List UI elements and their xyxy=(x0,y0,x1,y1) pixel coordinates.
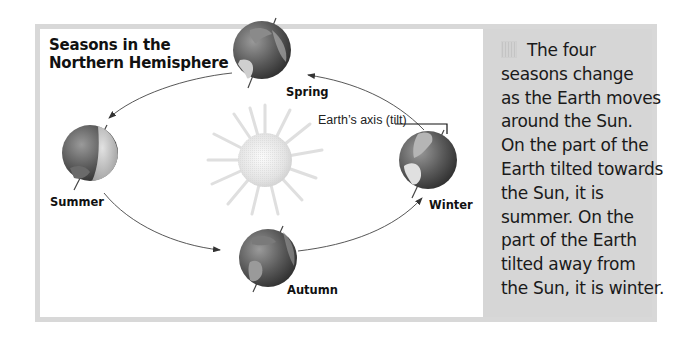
globe-summer-icon xyxy=(62,125,118,190)
panel-line-4: around the Sun. xyxy=(501,110,661,134)
globe-spring-icon xyxy=(233,18,291,88)
arrow-autumn-to-winter xyxy=(298,198,422,251)
panel-line-2: seasons change xyxy=(501,63,661,87)
panel-line-6: Earth tilted towards xyxy=(501,158,661,182)
panel-line-7: the Sun, it is xyxy=(501,182,661,206)
panel-line-5: On the part of the xyxy=(501,134,661,158)
arrow-summer-to-autumn xyxy=(104,193,220,250)
panel-line-10: tilted away from xyxy=(501,253,661,277)
panel-line-8: summer. On the xyxy=(501,206,661,230)
title-line-2: Northern Hemisphere xyxy=(49,54,228,72)
sun-icon xyxy=(208,105,322,214)
arrow-spring-to-summer xyxy=(109,73,232,118)
panel-line-1: The four xyxy=(501,39,661,63)
label-autumn: Autumn xyxy=(287,283,338,297)
label-spring: Spring xyxy=(286,85,329,99)
panel-line-3: as the Earth moves xyxy=(501,87,661,111)
panel-line-9: part of the Earth xyxy=(501,229,661,253)
panel-line-11: the Sun, it is winter. xyxy=(501,277,661,301)
hatched-square-icon xyxy=(501,41,517,58)
label-summer: Summer xyxy=(50,195,104,209)
label-winter: Winter xyxy=(429,198,473,212)
axis-label: Earth’s axis (tilt) xyxy=(318,113,407,127)
panel-description: The four seasons change as the Earth mov… xyxy=(501,39,661,301)
diagram-title: Seasons in the Northern Hemisphere xyxy=(49,36,228,72)
globe-winter-icon xyxy=(399,130,457,198)
title-line-1: Seasons in the xyxy=(49,36,228,54)
